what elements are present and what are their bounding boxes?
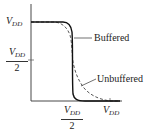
dd-subscript: DD <box>70 109 80 117</box>
y-label-vdd: VDD <box>6 16 22 29</box>
y-label-vdd-half: VDD 2 <box>6 47 28 73</box>
vtc-diagram: VDD VDD 2 VDD 2 VDD Buffered Unbuffered <box>0 0 159 131</box>
dd-subscript: DD <box>12 20 22 28</box>
x-label-vdd: VDD <box>103 105 119 118</box>
denominator: 2 <box>70 120 75 131</box>
x-label-vdd-half: VDD 2 <box>61 105 83 131</box>
dd-subscript: DD <box>15 51 25 59</box>
denominator: 2 <box>15 62 20 73</box>
unbuffered-leader <box>81 79 96 86</box>
buffered-label: Buffered <box>94 33 129 43</box>
unbuffered-label: Unbuffered <box>97 74 143 84</box>
dd-subscript: DD <box>109 109 119 117</box>
